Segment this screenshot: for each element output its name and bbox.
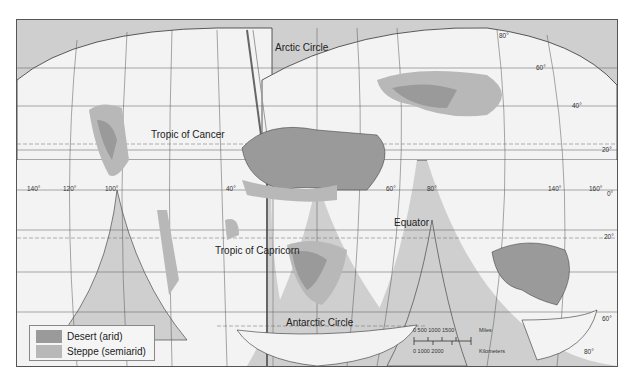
scale-bar: 0 500 1000 1500 Miles 0 1000 2000 Kilome… [413,327,523,363]
map-graphic [17,20,617,366]
latitude-label: 20° [602,147,612,154]
km-unit: Kilometers [479,348,505,354]
scale-ruler [413,335,473,347]
legend-label: Steppe (semiarid) [67,346,146,357]
map-legend: Desert (arid) Steppe (semiarid) [29,325,155,361]
equator-label: Equator [394,218,429,228]
longitude-label: 40° [226,186,236,193]
legend-item-steppe: Steppe (semiarid) [36,344,146,358]
latitude-label: 40° [572,103,582,110]
latitude-label: 80° [499,33,509,40]
steppe-swatch [36,345,62,358]
world-map: Tropic of Cancer Arctic Circle Equator T… [16,19,618,367]
arctic-circle-label: Arctic Circle [275,43,328,53]
latitude-label: 0° [607,191,613,198]
legend-label: Desert (arid) [67,331,123,342]
tropic-of-capricorn-label: Tropic of Capricorn [215,246,300,256]
miles-ticks: 0 500 1000 1500 [413,327,454,333]
latitude-label: 60° [536,65,546,72]
km-ticks: 0 1000 2000 [413,348,444,354]
antarctic-circle-label: Antarctic Circle [286,318,353,328]
longitude-label: 60° [386,186,396,193]
longitude-label: 140° [548,186,561,193]
miles-unit: Miles [479,327,492,333]
tropic-of-cancer-label: Tropic of Cancer [151,130,225,140]
longitude-label: 140° [27,186,40,193]
latitude-label: 80° [584,349,594,356]
legend-item-desert: Desert (arid) [36,329,123,343]
longitude-label: 100° [105,186,118,193]
longitude-label: 160° [589,186,602,193]
longitude-label: 120° [63,186,76,193]
longitude-label: 80° [427,186,437,193]
desert-swatch [36,330,62,343]
latitude-label: 20° [604,234,614,241]
latitude-label: 60° [602,316,612,323]
